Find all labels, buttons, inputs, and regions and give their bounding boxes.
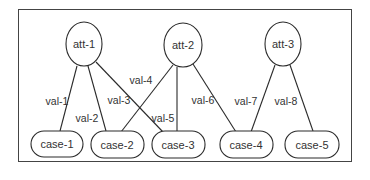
attribute-node-att-1: att-1 <box>66 22 102 66</box>
case-node-case-5: case-5 <box>285 131 339 158</box>
case-node-case-2: case-2 <box>91 131 144 158</box>
case-node-case-4: case-4 <box>220 131 273 158</box>
edge-label: val-1 <box>46 95 69 107</box>
edge-label: val-3 <box>108 94 131 106</box>
node-label: case-2 <box>100 139 133 151</box>
node-label: att-3 <box>272 38 294 50</box>
node-label: case-5 <box>295 139 328 151</box>
edge-label: val-8 <box>275 95 298 107</box>
node-label: case-1 <box>40 138 73 150</box>
node-label: case-4 <box>229 139 262 151</box>
node-label: att-2 <box>172 39 194 51</box>
edge-label: val-5 <box>152 112 175 124</box>
case-node-case-3: case-3 <box>152 131 205 158</box>
node-label: att-1 <box>73 38 95 50</box>
attribute-node-att-2: att-2 <box>164 23 202 67</box>
case-node-case-1: case-1 <box>31 131 83 157</box>
attribute-node-att-3: att-3 <box>265 22 301 66</box>
edge-label: val-7 <box>235 95 258 107</box>
edge-label: val-4 <box>130 74 153 86</box>
edge-label: val-6 <box>192 94 215 106</box>
node-label: case-3 <box>161 139 194 151</box>
diagram-canvas: val-1 val-2 val-3 val-4 val-5 val-6 val-… <box>0 0 370 180</box>
edge-label: val-2 <box>76 112 99 124</box>
